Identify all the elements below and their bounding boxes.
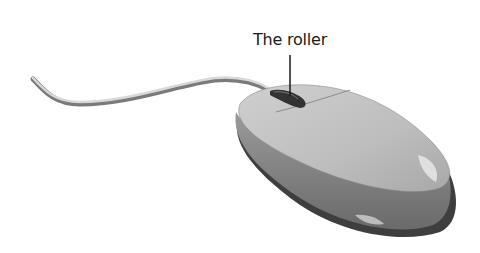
mouse-illustration: The roller bbox=[0, 0, 480, 253]
roller-label: The roller bbox=[238, 30, 342, 49]
